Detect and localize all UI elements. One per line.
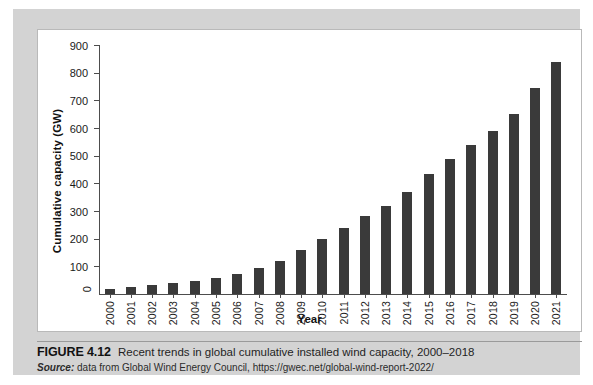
y-tick-label-900: 900	[70, 40, 88, 51]
y-tick-label-400: 400	[70, 178, 88, 189]
x-tick-2015	[429, 294, 430, 298]
y-tick-600: 600	[94, 128, 99, 129]
source-label: Source:	[37, 362, 74, 373]
figure-source: Source: data from Global Wind Energy Cou…	[37, 362, 434, 373]
bar-2009	[296, 250, 306, 294]
x-tick-2006	[237, 294, 238, 298]
y-tick-label-100: 100	[70, 261, 88, 272]
bar-2005	[211, 278, 221, 294]
x-tick-2017	[471, 294, 472, 298]
x-tick-2005	[216, 294, 217, 298]
x-tick-2014	[407, 294, 408, 298]
x-tick-2012	[365, 294, 366, 298]
x-tick-2001	[131, 294, 132, 298]
bar-2020	[530, 88, 540, 294]
source-text: data from Global Wind Energy Council, ht…	[77, 362, 434, 373]
bar-2019	[509, 114, 519, 294]
x-tick-2003	[173, 294, 174, 298]
bar-2010	[317, 239, 327, 294]
bar-2008	[275, 261, 285, 294]
y-tick-200: 200	[94, 239, 99, 240]
y-tick-400: 400	[94, 183, 99, 184]
y-tick-label-800: 800	[70, 68, 88, 79]
figure-number: FIGURE 4.12	[37, 345, 111, 359]
y-tick-900: 900	[94, 45, 99, 46]
plot-area: 100200300400500600700800900 200020012002…	[99, 45, 567, 309]
y-axis-line	[99, 45, 100, 294]
y-tick-label-300: 300	[70, 206, 88, 217]
figure-caption-text: Recent trends in global cumulative insta…	[118, 346, 475, 358]
y-tick-800: 800	[94, 73, 99, 74]
x-tick-2019	[514, 294, 515, 298]
bar-2007	[254, 268, 264, 294]
x-tick-2000	[110, 294, 111, 298]
bar-2021	[551, 62, 561, 294]
x-tick-2007	[259, 294, 260, 298]
x-tick-2004	[195, 294, 196, 298]
caption-divider	[37, 341, 582, 342]
x-tick-2008	[280, 294, 281, 298]
figure-container: Cumulative capacity (GW) 100200300400500…	[0, 0, 593, 385]
x-tick-2021	[556, 294, 557, 298]
chart-panel: Cumulative capacity (GW) 100200300400500…	[37, 29, 582, 332]
caption-block: FIGURE 4.12Recent trends in global cumul…	[37, 341, 582, 377]
bar-2001	[126, 287, 136, 294]
y-tick-700: 700	[94, 100, 99, 101]
bar-2017	[466, 145, 476, 294]
bar-2002	[147, 285, 157, 294]
x-tick-2018	[493, 294, 494, 298]
x-tick-2009	[301, 294, 302, 298]
x-tick-2020	[535, 294, 536, 298]
y-tick-500: 500	[94, 156, 99, 157]
y-tick-label-600: 600	[70, 123, 88, 134]
x-tick-2011	[344, 294, 345, 298]
y-tick-label-700: 700	[70, 95, 88, 106]
x-axis-title: Year	[38, 313, 581, 325]
y-axis-title: Cumulative capacity (GW)	[51, 108, 63, 252]
bar-2014	[402, 192, 412, 294]
figure-mount-frame: Cumulative capacity (GW) 100200300400500…	[13, 9, 580, 375]
bar-2015	[424, 174, 434, 294]
x-tick-2002	[152, 294, 153, 298]
y-tick-label-zero: 0	[82, 286, 93, 292]
bar-2004	[190, 281, 200, 294]
bar-2003	[168, 283, 178, 294]
bar-2016	[445, 159, 455, 294]
bar-2011	[339, 228, 349, 294]
y-tick-label-500: 500	[70, 151, 88, 162]
y-tick-100: 100	[94, 266, 99, 267]
x-tick-2016	[450, 294, 451, 298]
bar-2012	[360, 216, 370, 294]
figure-caption: FIGURE 4.12Recent trends in global cumul…	[37, 345, 474, 359]
y-tick-label-200: 200	[70, 234, 88, 245]
bar-2018	[488, 131, 498, 295]
x-axis-line	[99, 294, 567, 295]
bar-2013	[381, 206, 391, 294]
y-tick-300: 300	[94, 211, 99, 212]
bar-2006	[232, 274, 242, 294]
x-tick-2013	[386, 294, 387, 298]
x-tick-2010	[322, 294, 323, 298]
